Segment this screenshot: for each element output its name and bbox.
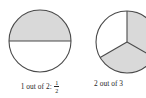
caption-two-thirds: 2 out of 3 <box>80 79 146 88</box>
caption-text-one-of-two: 1 out of 2: <box>21 82 52 91</box>
fraction-one-half: 1 2 <box>54 80 59 94</box>
circle-thirds-svg <box>80 0 146 78</box>
fraction-circles-figure: 1 out of 2: 1 2 <box>0 0 146 98</box>
caption-text-two-of-three: 2 out of 3 <box>94 79 123 88</box>
fraction-denominator: 2 <box>54 87 59 94</box>
circle-segment-unshaded-bottom <box>9 41 71 72</box>
circle-segment-shaded-top <box>9 10 71 41</box>
fraction-diagram-two-thirds: 2 out of 3 <box>80 0 146 98</box>
caption-one-half: 1 out of 2: 1 2 <box>0 79 80 93</box>
fraction-diagram-one-half: 1 out of 2: 1 2 <box>0 0 80 98</box>
circle-halves-svg <box>0 0 80 78</box>
